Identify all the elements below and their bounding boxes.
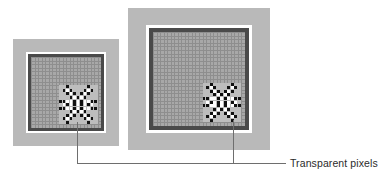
transparent-pixel	[70, 100, 73, 103]
opaque-pixel	[84, 89, 87, 92]
transparent-pixel	[66, 100, 69, 103]
large-image-white-border	[146, 25, 252, 133]
transparent-pixel	[224, 108, 227, 111]
transparent-pixel	[66, 89, 69, 92]
opaque-pixel	[87, 85, 90, 88]
opaque-pixel	[213, 93, 216, 96]
opaque-pixel	[66, 114, 69, 117]
opaque-pixel	[206, 115, 209, 118]
transparent-pixel	[213, 112, 216, 115]
opaque-pixel	[217, 97, 220, 100]
opaque-pixel	[87, 103, 90, 106]
opaque-pixel	[210, 119, 213, 122]
opaque-pixel	[84, 110, 87, 113]
opaque-pixel	[224, 112, 227, 115]
opaque-pixel	[66, 92, 69, 95]
transparent-pixel	[84, 103, 87, 106]
opaque-pixel	[203, 104, 206, 107]
opaque-pixel	[231, 112, 234, 115]
opaque-pixel	[94, 100, 97, 103]
transparent-pixel	[66, 117, 69, 120]
transparent-pixel	[87, 89, 90, 92]
transparent-pixel	[227, 104, 230, 107]
opaque-pixel	[59, 100, 62, 103]
large-image-pixel-grid	[153, 32, 245, 126]
transparent-pixel	[84, 114, 87, 117]
opaque-pixel	[227, 86, 230, 89]
leader-line-small-vertical	[77, 122, 78, 163]
transparent-pixel	[213, 90, 216, 93]
transparent-pixel	[210, 104, 213, 107]
opaque-pixel	[234, 104, 237, 107]
opaque-pixel	[73, 100, 76, 103]
transparent-pixel	[227, 112, 230, 115]
opaque-pixel	[203, 97, 206, 100]
opaque-pixel	[63, 107, 66, 110]
transparent-pixel	[220, 101, 223, 104]
opaque-pixel	[63, 100, 66, 103]
transparent-pixel	[224, 93, 227, 96]
transparent-pixel	[87, 100, 90, 103]
transparent-pixel-burst	[203, 83, 242, 123]
transparent-pixel	[73, 96, 76, 99]
opaque-pixel	[80, 100, 83, 103]
opaque-pixel	[66, 103, 69, 106]
transparent-pixel	[210, 97, 213, 100]
opaque-pixel	[70, 89, 73, 92]
transparent-pixel	[227, 97, 230, 100]
opaque-pixel	[91, 89, 94, 92]
transparent-pixel	[70, 103, 73, 106]
opaque-pixel	[227, 108, 230, 111]
opaque-pixel	[91, 107, 94, 110]
opaque-pixel	[220, 108, 223, 111]
transparent-pixel	[66, 107, 69, 110]
transparent-pixel	[217, 93, 220, 96]
opaque-pixel	[217, 90, 220, 93]
transparent-pixel	[231, 104, 234, 107]
opaque-pixel	[59, 107, 62, 110]
transparent-pixel	[206, 101, 209, 104]
opaque-pixel	[224, 101, 227, 104]
opaque-pixel	[234, 97, 237, 100]
transparent-pixel	[234, 101, 237, 104]
small-image-frame	[28, 54, 104, 131]
opaque-pixel	[217, 101, 220, 104]
small-image-white-border	[26, 52, 106, 133]
opaque-pixel	[238, 104, 241, 107]
opaque-pixel	[73, 107, 76, 110]
opaque-pixel	[77, 110, 80, 113]
opaque-pixel	[63, 89, 66, 92]
transparent-pixel	[213, 104, 216, 107]
leader-line-large-vertical	[233, 120, 234, 163]
transparent-pixel	[70, 107, 73, 110]
transparent-pixel	[77, 107, 80, 110]
opaque-pixel	[70, 117, 73, 120]
transparent-pixel	[213, 97, 216, 100]
transparent-pixel	[231, 97, 234, 100]
opaque-pixel	[210, 83, 213, 86]
transparent-pixel	[73, 110, 76, 113]
opaque-pixel	[220, 93, 223, 96]
opaque-pixel	[231, 90, 234, 93]
transparent-pixel	[70, 92, 73, 95]
transparent-pixel	[217, 108, 220, 111]
opaque-pixel	[91, 100, 94, 103]
opaque-pixel	[206, 104, 209, 107]
opaque-pixel	[213, 108, 216, 111]
opaque-pixel	[80, 114, 83, 117]
large-image-frame	[149, 28, 249, 130]
transparent-pixel	[227, 90, 230, 93]
large-magnified-image	[128, 8, 270, 150]
opaque-pixel	[234, 115, 237, 118]
opaque-pixel	[66, 121, 69, 124]
opaque-pixel	[213, 86, 216, 89]
transparent-pixel	[77, 100, 80, 103]
transparent-pixel	[220, 104, 223, 107]
opaque-pixel	[84, 96, 87, 99]
opaque-pixel	[87, 121, 90, 124]
transparent-pixel	[220, 97, 223, 100]
opaque-pixel	[231, 83, 234, 86]
transparent-pixel	[63, 103, 66, 106]
transparent-pixel	[231, 86, 234, 89]
transparent-pixel	[87, 107, 90, 110]
